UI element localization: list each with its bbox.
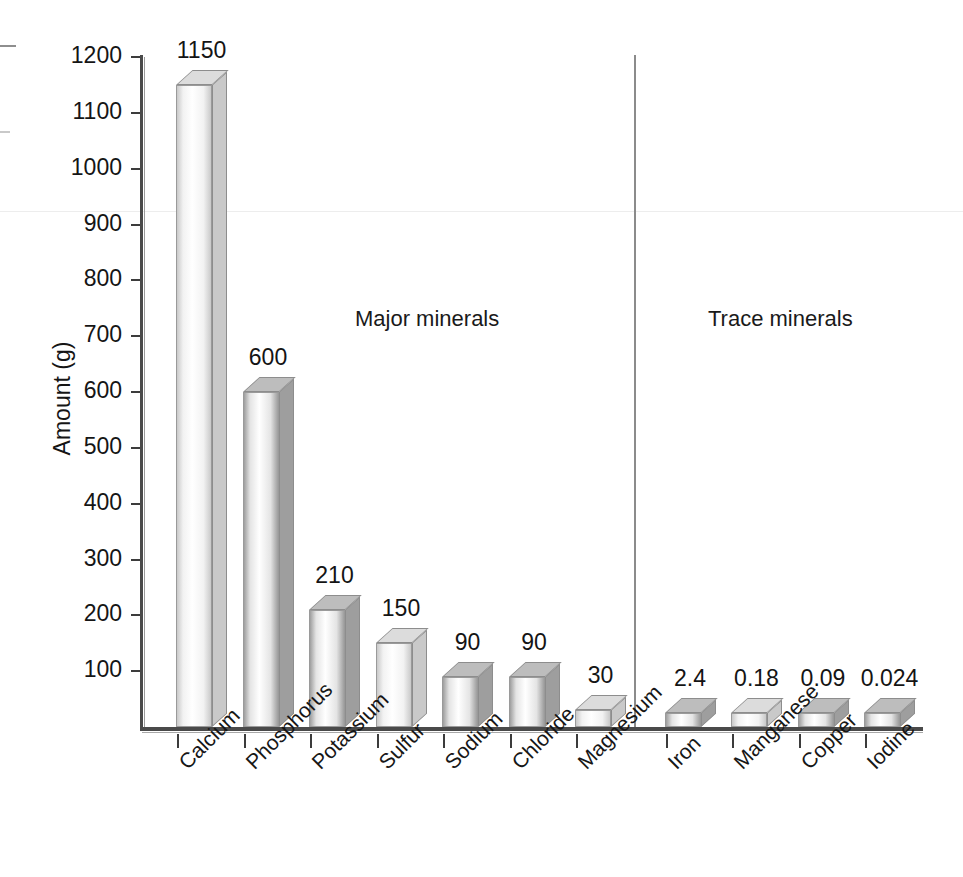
bar-value-label: 90 xyxy=(474,629,594,656)
x-tick-mark xyxy=(177,734,179,748)
bar-front-face xyxy=(509,677,545,727)
bar-side-face xyxy=(212,71,227,727)
y-tick-mark xyxy=(131,670,140,672)
scan-artifact-mark-mid xyxy=(0,131,10,133)
x-tick-mark xyxy=(666,734,668,748)
y-tick-label: 400 xyxy=(10,489,122,516)
bar-value-label: 600 xyxy=(208,344,328,371)
x-tick-mark xyxy=(244,734,246,748)
y-tick-label: 1100 xyxy=(10,98,122,125)
y-tick-mark xyxy=(131,391,140,393)
group-heading-trace: Trace minerals xyxy=(708,306,853,332)
x-tick-mark xyxy=(799,734,801,748)
bar-magnesium[interactable] xyxy=(575,695,611,727)
y-tick-mark xyxy=(131,559,140,561)
group-heading-major: Major minerals xyxy=(355,306,499,332)
y-tick-mark xyxy=(131,503,140,505)
y-tick-label: 500 xyxy=(10,433,122,460)
y-tick-label: 600 xyxy=(10,377,122,404)
y-tick-mark xyxy=(131,56,140,58)
bar-chloride[interactable] xyxy=(509,662,545,727)
bar-value-label: 210 xyxy=(275,562,395,589)
bar-front-face xyxy=(442,677,478,727)
bar-sodium[interactable] xyxy=(442,662,478,727)
bar-value-label: 150 xyxy=(341,595,461,622)
y-tick-mark xyxy=(131,447,140,449)
bar-front-face xyxy=(665,713,701,727)
y-tick-label: 300 xyxy=(10,545,122,572)
bar-calcium[interactable] xyxy=(176,70,212,727)
x-tick-mark xyxy=(310,734,312,748)
bar-front-face xyxy=(176,85,212,727)
y-tick-label: 900 xyxy=(10,210,122,237)
x-category-label: Iron xyxy=(663,731,706,774)
y-axis-highlight xyxy=(144,57,145,729)
x-tick-mark xyxy=(732,734,734,748)
x-tick-mark xyxy=(377,734,379,748)
bar-side-face xyxy=(279,378,294,727)
y-tick-mark xyxy=(131,614,140,616)
group-divider-line xyxy=(634,55,636,727)
bar-front-face xyxy=(243,392,279,727)
y-tick-label: 800 xyxy=(10,265,122,292)
x-tick-mark xyxy=(510,734,512,748)
chart-canvas: Amount (g) 12001100100090080070060050040… xyxy=(0,0,963,877)
y-tick-mark xyxy=(131,168,140,170)
y-tick-label: 1200 xyxy=(10,42,122,69)
bar-value-label: 1150 xyxy=(142,37,262,64)
y-tick-mark xyxy=(131,224,140,226)
y-tick-mark xyxy=(131,279,140,281)
y-tick-mark xyxy=(131,112,140,114)
bar-value-label: 0.024 xyxy=(830,665,950,692)
x-tick-mark xyxy=(865,734,867,748)
x-tick-mark xyxy=(443,734,445,748)
y-tick-label: 100 xyxy=(10,656,122,683)
y-tick-label: 700 xyxy=(10,321,122,348)
y-axis-line xyxy=(140,55,143,731)
y-tick-label: 1000 xyxy=(10,154,122,181)
x-axis-line xyxy=(140,727,923,731)
bar-phosphorus[interactable] xyxy=(243,377,279,727)
bar-iron[interactable] xyxy=(665,698,701,727)
y-tick-label: 200 xyxy=(10,600,122,627)
y-tick-mark xyxy=(131,335,140,337)
x-tick-mark xyxy=(576,734,578,748)
